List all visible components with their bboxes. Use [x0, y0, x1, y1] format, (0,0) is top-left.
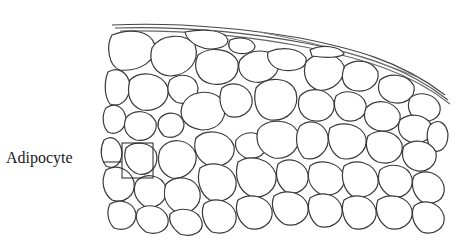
adipocyte-label: Adipocyte [6, 149, 73, 167]
adipocyte-cells [101, 30, 448, 235]
tissue-drawing [0, 0, 468, 251]
adipose-tissue-figure: Adipocyte [0, 0, 468, 251]
